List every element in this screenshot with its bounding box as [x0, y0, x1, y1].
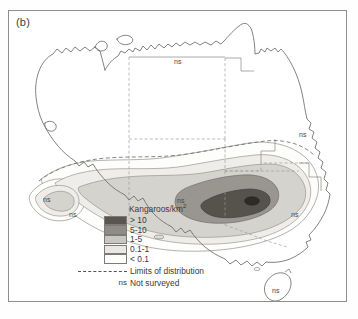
ns-marker-south-west: ns	[69, 211, 77, 218]
legend-row-5-10: 5-10	[104, 225, 204, 235]
legend-label-lt-0-1: < 0.1	[130, 255, 149, 263]
legend-title-text: Kangaroos/km	[129, 204, 183, 214]
legend-label-not-surveyed: Not surveyed	[130, 279, 179, 287]
legend-row-not-surveyed: ns Not surveyed	[104, 278, 204, 289]
legend-swatch-0-1-1	[104, 245, 127, 254]
legend-label-5-10: 5-10	[130, 226, 147, 234]
map-legend: Kangaroos/km2 > 10 5-10 1-5 0.1-1 < 0.1 …	[104, 203, 204, 289]
legend-row-gt-10: > 10	[104, 216, 204, 226]
legend-swatch-lt-0-1	[104, 254, 127, 263]
dashed-line-icon	[78, 271, 127, 272]
legend-row-1-5: 1-5	[104, 235, 204, 245]
legend-swatch-gt-10	[104, 216, 127, 225]
ns-marker-western-australia: ns	[43, 196, 51, 203]
tasmania	[264, 269, 291, 301]
legend-row-limits: Limits of distribution	[104, 266, 204, 277]
legend-label-limits: Limits of distribution	[130, 267, 204, 275]
legend-title-superscript: 2	[183, 203, 186, 209]
ns-marker-new-south-wales: ns	[291, 211, 299, 218]
legend-title: Kangaroos/km2	[129, 203, 204, 213]
legend-label-1-5: 1-5	[130, 235, 142, 243]
legend-row-0-1-1: 0.1-1	[104, 244, 204, 254]
ns-marker-northern-territory: ns	[174, 58, 182, 65]
legend-label-gt-10: > 10	[130, 216, 147, 224]
legend-label-0-1-1: 0.1-1	[130, 245, 149, 253]
legend-swatch-5-10	[104, 225, 127, 234]
figure-panel-b: (b)	[0, 0, 358, 319]
ns-marker-tasmania: ns	[272, 287, 280, 294]
ns-marker-queensland: ns	[299, 131, 307, 138]
panel-label: (b)	[16, 16, 30, 28]
legend-ns-key: ns	[104, 279, 127, 287]
legend-row-lt-0-1: < 0.1	[104, 254, 204, 264]
legend-swatch-1-5	[104, 235, 127, 244]
